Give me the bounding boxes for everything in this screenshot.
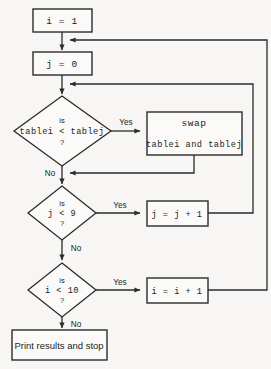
- node-check-i-line1: is: [59, 276, 65, 285]
- edge-label-compare-yes: Yes: [119, 118, 132, 127]
- node-compare-line2: tablei < tablej: [20, 127, 105, 137]
- node-swap-line2: tablei and tablej: [146, 140, 242, 150]
- node-compare-line3: ?: [60, 138, 64, 147]
- node-init-i-label: i = 1: [46, 16, 78, 27]
- node-check-j-line3: ?: [60, 219, 64, 228]
- edge-label-check-i-yes: Yes: [113, 278, 126, 287]
- node-incr-i-label: i = i + 1: [152, 287, 203, 297]
- node-compare-line1: is: [59, 116, 65, 125]
- edge-label-check-j-no: No: [71, 244, 82, 253]
- edge-label-compare-no: No: [45, 169, 56, 178]
- node-swap-line1: swap: [181, 118, 206, 129]
- edge-label-check-j-yes: Yes: [113, 201, 126, 210]
- node-check-i-line2: i < 10: [45, 286, 79, 296]
- node-incr-j-label: j = j + 1: [152, 210, 203, 220]
- edge-swap-to-no-junction: [70, 155, 194, 173]
- node-print-label: Print results and stop: [14, 340, 103, 351]
- node-init-j-label: j = 0: [46, 59, 78, 70]
- node-check-j-line2: j < 9: [48, 209, 76, 219]
- node-check-j-line1: is: [59, 199, 65, 208]
- edge-incr-i-to-init-j-stem: [70, 40, 267, 290]
- flowchart-svg: i = 1 j = 0 is tablei < tablej ? swap ta…: [0, 0, 271, 369]
- flowchart-canvas: i = 1 j = 0 is tablei < tablej ? swap ta…: [0, 0, 271, 369]
- node-check-i-line3: ?: [60, 296, 64, 305]
- edge-label-check-i-no: No: [71, 320, 82, 329]
